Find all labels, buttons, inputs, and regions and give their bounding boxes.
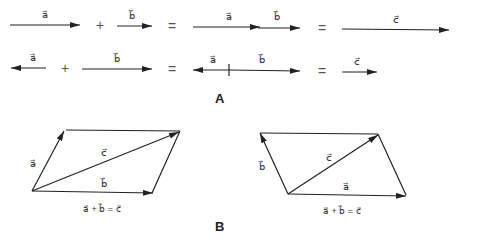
vector-b-label-r2: b⃗ [113, 52, 120, 64]
right-edge [152, 131, 180, 193]
vector-b-label-sum-r2: b⃗ [258, 53, 265, 65]
equation-left: a⃗ + b⃗ = c⃗ [83, 203, 121, 214]
right-edge-right [378, 134, 406, 195]
equals-sign: = [168, 18, 176, 34]
row2: a⃗ + b⃗ = a⃗ b⃗ = c⃗ [11, 52, 377, 79]
equation-right: a⃗ + b⃗ = c⃗ [323, 205, 361, 216]
vector-c-label: c⃗ [393, 14, 399, 25]
vector-a-label-sum: a⃗ [226, 11, 232, 22]
vector-a-label-r2: a⃗ [30, 52, 36, 63]
vector-c-label-r2: c⃗ [354, 56, 360, 67]
top-edge-right [260, 133, 378, 134]
label-b: b⃗ [100, 177, 107, 189]
base-a-arrow [288, 194, 406, 196]
label-a: a⃗ [30, 158, 36, 169]
equals-sign-r2: = [168, 61, 176, 77]
vector-c-arrow [342, 29, 449, 30]
vector-b-label: b⃗ [128, 9, 135, 21]
side-a-arrow [32, 131, 64, 191]
base-b-arrow [32, 191, 153, 193]
vector-a-label-sum-r2: a⃗ [210, 54, 216, 65]
section-label-a: A [215, 91, 225, 106]
label-c-right: c⃗ [326, 152, 332, 163]
section-label-b: B [215, 219, 224, 234]
label-c: c⃗ [101, 147, 107, 158]
equals-sign-2: = [318, 20, 326, 36]
plus-sign-r2: + [61, 60, 69, 76]
parallelogram-right: b⃗ c⃗ a⃗ a⃗ + b⃗ = c⃗ [258, 133, 406, 216]
parallelogram-left: a⃗ c⃗ b⃗ a⃗ + b⃗ = c⃗ [30, 130, 180, 214]
plus-sign: + [96, 17, 104, 33]
top-edge [66, 130, 180, 131]
vector-b-label-sum: b⃗ [273, 10, 280, 22]
label-b-right: b⃗ [258, 160, 265, 172]
label-a-right: a⃗ [343, 181, 349, 192]
vector-addition-diagram: a⃗ + b⃗ = a⃗ b⃗ = c⃗ a⃗ + b⃗ = a⃗ b⃗ = c… [0, 0, 480, 241]
row1: a⃗ + b⃗ = a⃗ b⃗ = c⃗ [10, 9, 449, 36]
equals-sign-2-r2: = [318, 63, 326, 79]
diagonal-c-arrow-right [288, 135, 378, 194]
vector-a-label: a⃗ [42, 9, 48, 20]
vector-b-arrow-sum-r2 [229, 70, 300, 71]
